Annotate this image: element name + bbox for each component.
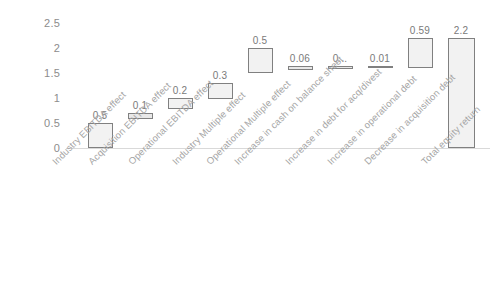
y-axis-tick-2.5: 2.5 — [16, 17, 60, 29]
y-axis-tick-1.5: 1.5 — [16, 67, 60, 79]
data-label-total-equity-return: 2.2 — [454, 25, 469, 36]
waterfall-chart: 2.5 2 1.5 1 0.5 0 0.5 0.1 0.2 0.3 0.5 0.… — [0, 0, 494, 293]
data-label-operational-multiple-effect: 0.5 — [253, 35, 268, 46]
data-label-operational-ebitda-effect: 0.2 — [173, 85, 188, 96]
y-axis-tick-0: 0 — [16, 142, 60, 154]
plot-area: 2.5 2 1.5 1 0.5 0 0.5 0.1 0.2 0.3 0.5 0.… — [0, 0, 494, 293]
x-axis-line — [66, 148, 490, 149]
data-label-decrease-in-acquisition-debt: 0.59 — [410, 25, 430, 36]
data-label-increase-in-cash-on-balance-sheet: 0.06 — [290, 53, 310, 64]
bar-increase-in-cash-on-balance-sheet — [288, 66, 313, 70]
bar-decrease-in-acquisition-debt — [408, 38, 433, 68]
bar-increase-in-operational-debt — [368, 66, 393, 68]
y-axis-tick-1: 1 — [16, 92, 60, 104]
y-axis-tick-2: 2 — [16, 42, 60, 54]
y-axis-tick-0.5: 0.5 — [16, 117, 60, 129]
data-label-industry-multiple-effect: 0.3 — [213, 70, 228, 81]
bar-operational-multiple-effect — [248, 48, 273, 73]
category-label-operational-ebitda-effect: Operational EBITDA effect — [126, 78, 215, 167]
data-label-increase-in-operational-debt: 0.01 — [370, 53, 390, 64]
